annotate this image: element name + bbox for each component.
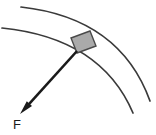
- physics-figure: F: [0, 0, 156, 135]
- force-vector-label: F: [13, 117, 21, 132]
- figure-canvas: F: [0, 0, 156, 135]
